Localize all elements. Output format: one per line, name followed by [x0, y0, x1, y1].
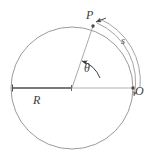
label-angle-theta: θ [84, 62, 90, 74]
label-point-o: O [135, 85, 144, 97]
figure-canvas [0, 0, 153, 156]
radius-line-to-p [72, 26, 93, 88]
arc-length-s [100, 19, 140, 88]
point-p-marker [91, 24, 94, 27]
arc-length-s-inner [97, 23, 136, 96]
label-point-p: P [86, 9, 93, 21]
label-radius-r: R [33, 94, 40, 106]
geometry-figure: P s O θ R [0, 0, 153, 156]
label-arc-s: s [121, 36, 125, 46]
